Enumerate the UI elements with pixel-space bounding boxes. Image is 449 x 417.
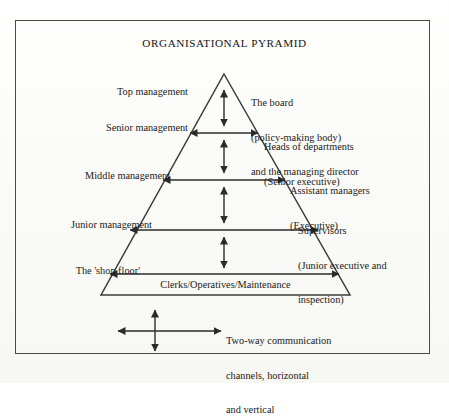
page-title: ORGANISATIONAL PYRAMID [0,37,449,50]
legend-two-way-communication: Two-way communication channels, horizont… [226,312,426,417]
label-heads-line-1: Heads of departments [264,141,444,153]
label-supervisors-line-3: inspection) [298,294,448,306]
label-the-board-line-1: The board [251,97,436,109]
legend-line-3: and vertical [226,404,426,416]
label-middle-management: Middle management [10,170,170,182]
label-supervisors: Supervisors (Junior executive and inspec… [298,202,448,329]
label-clerks-operatives-maintenance: Clerks/Operatives/Maintenance [101,279,350,291]
label-senior-management: Senior management [20,122,188,134]
label-shop-floor: The 'shop floor' [0,265,140,277]
legend-line-2: channels, horizontal [226,370,426,382]
label-supervisors-line-1: Supervisors [298,225,448,237]
label-top-management: Top management [40,86,188,98]
legend-line-1: Two-way communication [226,335,426,347]
label-supervisors-line-2: (Junior executive and [298,260,448,272]
label-junior-management: Junior management [0,219,152,231]
label-assistant-line-1: Assistant managers [290,185,449,197]
